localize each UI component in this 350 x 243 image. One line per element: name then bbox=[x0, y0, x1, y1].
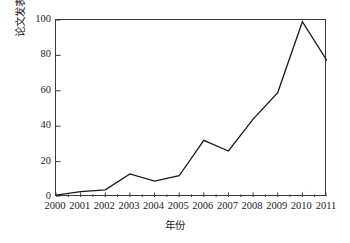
y-tick-label: 40 bbox=[25, 120, 51, 130]
y-tick-marks bbox=[56, 20, 61, 197]
y-axis-tick-labels: 020406080100 bbox=[22, 19, 51, 196]
data-line-svg bbox=[56, 20, 327, 197]
y-tick-label: 80 bbox=[25, 49, 51, 59]
x-axis-tick-labels: 2000200120022003200420052006200720082009… bbox=[55, 200, 326, 214]
y-tick-label: 100 bbox=[25, 14, 51, 24]
x-tick-marks bbox=[56, 193, 327, 198]
series-line-papers-published bbox=[56, 22, 327, 195]
plot-area bbox=[55, 19, 326, 196]
x-tick-label: 2011 bbox=[306, 200, 346, 212]
x-axis-title: 年份 bbox=[0, 219, 350, 232]
y-tick-label: 20 bbox=[25, 156, 51, 166]
line-chart: 论文发表数量 020406080100 20002001200220032004… bbox=[0, 0, 350, 243]
y-tick-label: 60 bbox=[25, 85, 51, 95]
